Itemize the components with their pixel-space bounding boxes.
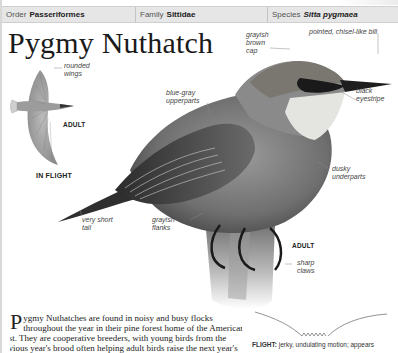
label-flanks: grayish flanks [152,216,175,232]
label-line: sharp [297,259,315,267]
drop-cap: P [10,313,22,331]
inset-flying-bird [11,70,75,165]
body-line-1: ygmy Nuthatches are found in noisy and b… [10,313,242,323]
label-line: blue-gray [166,89,199,97]
label-cap: grayish brown cap [246,31,269,55]
label-line: black [356,87,384,95]
label-line: cap [246,47,269,55]
label-line: rounded [64,62,90,70]
flight-caption: FLIGHT: jerky, undulating motion; appear… [252,341,374,348]
label-line: upperparts [166,97,199,105]
label-line: tail [82,224,113,232]
label-line: claws [297,267,315,275]
description-text: P ygmy Nuthatches are found in noisy and… [10,313,242,353]
flight-path-diagram [255,312,387,336]
label-line: very short [82,216,113,224]
label-line: grayish [152,216,175,224]
label-bill: pointed, chisel-like bill [309,28,377,36]
flight-label: FLIGHT: [252,341,277,348]
label-rounded-wings: rounded wings [64,62,90,78]
inset-caption: IN FLIGHT [36,172,72,179]
label-line: flanks [152,224,175,232]
label-line: dusky [332,165,365,173]
label-underparts: dusky underparts [332,165,365,181]
body-line-3: West. They are cooperative breeders, wit… [10,333,242,343]
main-age-tag: ADULT [292,242,315,249]
label-upperparts: blue-gray upperparts [166,89,199,105]
label-eyestripe: black eyestripe [356,87,384,103]
body-line-2: throughout the year in their pine forest… [10,323,242,333]
flight-description: jerky, undulating motion; appears [277,341,374,348]
label-line: underparts [332,173,365,181]
label-line: eyestripe [356,95,384,103]
inset-age-tag: ADULT [63,121,86,128]
body-line-4: previous year's brood often helping adul… [10,343,242,353]
label-tail: very short tail [82,216,113,232]
label-line: brown [246,39,269,47]
label-claws: sharp claws [297,259,315,275]
label-line: grayish [246,31,269,39]
label-line: wings [64,70,90,78]
